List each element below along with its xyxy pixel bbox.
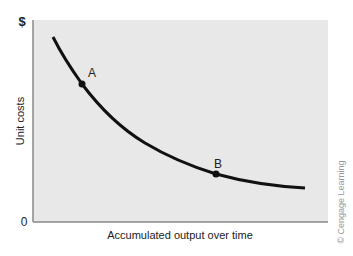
y-tick-zero: 0: [21, 215, 28, 229]
y-axis-label: Unit costs: [14, 96, 26, 145]
point-b-marker: [213, 171, 220, 178]
point-b-label: B: [214, 157, 222, 171]
point-a-marker: [79, 81, 86, 88]
x-axis-label: Accumulated output over time: [107, 229, 253, 241]
y-tick-dollar: $: [18, 14, 26, 29]
point-a-label: A: [88, 66, 96, 80]
copyright-credit: © Cengage Learning: [336, 160, 346, 243]
plot-area: [33, 20, 328, 222]
experience-curve-chart: $ 0 Unit costs Accumulated output over t…: [0, 0, 353, 256]
